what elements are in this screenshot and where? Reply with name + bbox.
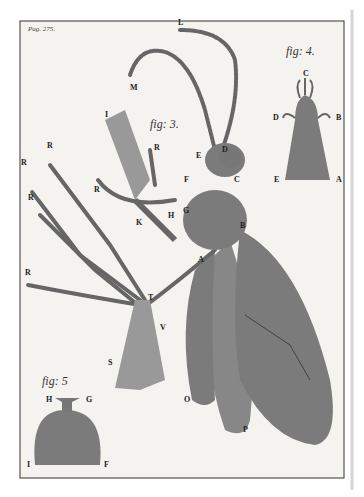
- engraved-plate: Pag. 275. fig: 3. fig: 4. fig: 5: [0, 0, 364, 497]
- svg-text:S: S: [108, 358, 113, 367]
- svg-text:O: O: [184, 395, 190, 404]
- svg-text:F: F: [104, 460, 109, 469]
- svg-text:D: D: [273, 113, 279, 122]
- svg-text:A: A: [198, 255, 204, 264]
- svg-text:A: A: [336, 175, 342, 184]
- svg-text:I: I: [27, 460, 30, 469]
- svg-text:D: D: [222, 145, 228, 154]
- svg-text:B: B: [240, 221, 246, 230]
- svg-text:T: T: [148, 293, 154, 302]
- svg-text:C: C: [303, 69, 309, 78]
- fig3-caption: fig: 3.: [150, 117, 179, 131]
- page-header: Pag. 275.: [27, 25, 55, 33]
- svg-text:R: R: [94, 185, 100, 194]
- svg-text:P: P: [243, 425, 248, 434]
- svg-text:E: E: [196, 151, 201, 160]
- svg-text:F: F: [184, 175, 189, 184]
- svg-text:H: H: [168, 211, 175, 220]
- svg-text:R: R: [28, 193, 34, 202]
- svg-text:C: C: [234, 175, 240, 184]
- svg-text:G: G: [86, 395, 92, 404]
- fig4-caption: fig: 4.: [286, 44, 315, 58]
- thorax: [183, 190, 247, 250]
- svg-text:V: V: [160, 323, 166, 332]
- svg-text:R: R: [154, 143, 160, 152]
- svg-text:B: B: [336, 113, 342, 122]
- svg-text:R: R: [21, 158, 27, 167]
- svg-text:E: E: [274, 175, 279, 184]
- svg-text:G: G: [183, 206, 189, 215]
- fig5-caption: fig: 5: [42, 374, 68, 388]
- svg-text:K: K: [136, 218, 143, 227]
- svg-text:L: L: [178, 18, 183, 27]
- svg-text:R: R: [25, 268, 31, 277]
- svg-text:R: R: [47, 141, 53, 150]
- svg-text:H: H: [46, 395, 53, 404]
- svg-text:I: I: [105, 110, 108, 119]
- svg-text:M: M: [130, 83, 138, 92]
